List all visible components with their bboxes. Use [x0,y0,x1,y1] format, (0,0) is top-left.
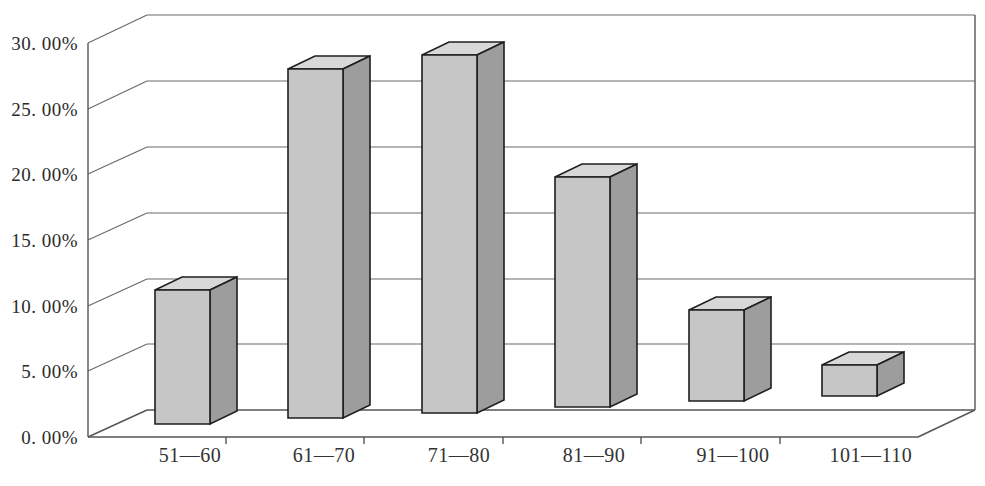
ytick-label-0: 0. 00% [21,427,78,448]
ytick-label-20: 20. 00% [11,164,78,185]
bar-side-face [610,164,637,407]
x-axis-labels: 51—60 61—70 71—80 81—90 91—100 101—110 [159,444,913,466]
xtick-label-1: 61—70 [293,444,356,466]
ytick-label-10: 10. 00% [11,296,78,317]
ytick-label-25: 25. 00% [11,99,78,120]
bar-front-face [822,365,877,396]
bar-101-110[interactable] [822,352,904,396]
ytick-label-30: 30. 00% [11,33,78,54]
bar-81-90[interactable] [555,164,637,407]
bar-front-face [155,290,210,424]
bar-chart-3d: 30. 00% 25. 00% 20. 00% 15. 00% 10. 00% … [0,0,985,486]
bar-61-70[interactable] [288,56,370,418]
xtick-label-0: 51—60 [159,444,222,466]
xtick-label-4: 91—100 [697,444,770,466]
bar-51-60[interactable] [155,277,237,424]
ytick-label-5: 5. 00% [21,361,78,382]
xtick-label-2: 71—80 [428,444,491,466]
bar-front-face [555,177,610,407]
bar-side-face [744,297,771,401]
bar-side-face [343,56,370,418]
y-axis-labels: 30. 00% 25. 00% 20. 00% 15. 00% 10. 00% … [11,33,78,448]
bar-71-80[interactable] [422,42,504,413]
xtick-label-5: 101—110 [830,444,913,466]
xtick-label-3: 81—90 [563,444,626,466]
x-axis-ticks [226,437,780,444]
bar-side-face [210,277,237,424]
bar-front-face [422,55,477,413]
bar-side-face [477,42,504,413]
bar-91-100[interactable] [689,297,771,401]
chart-figure: 30. 00% 25. 00% 20. 00% 15. 00% 10. 00% … [0,0,985,486]
ytick-label-15: 15. 00% [11,230,78,251]
bar-front-face [288,69,343,418]
bar-front-face [689,310,744,401]
